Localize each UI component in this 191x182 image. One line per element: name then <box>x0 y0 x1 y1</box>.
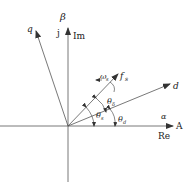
theta-s-subscript: s <box>101 115 104 121</box>
theta-d-arc <box>110 109 115 126</box>
q-vector <box>36 31 68 126</box>
alpha-label: α <box>161 112 167 121</box>
theta-delta-subscript: δ <box>112 101 115 107</box>
phasor-diagram: β j Im α A Re q f s d ω s θ s θ δ θ d <box>0 0 191 182</box>
theta-s-arc <box>86 107 94 126</box>
omega-subscript: s <box>106 76 109 82</box>
im-label: Im <box>73 31 86 41</box>
theta-d-subscript: d <box>123 119 126 125</box>
a-axis-label: A <box>175 121 183 131</box>
theta-delta-arc <box>96 98 106 112</box>
fs-subscript: s <box>125 75 128 82</box>
re-label: Re <box>158 131 170 141</box>
q-label: q <box>27 24 33 34</box>
d-label: d <box>173 81 179 91</box>
j-label: j <box>56 28 60 38</box>
beta-label: β <box>59 11 66 22</box>
